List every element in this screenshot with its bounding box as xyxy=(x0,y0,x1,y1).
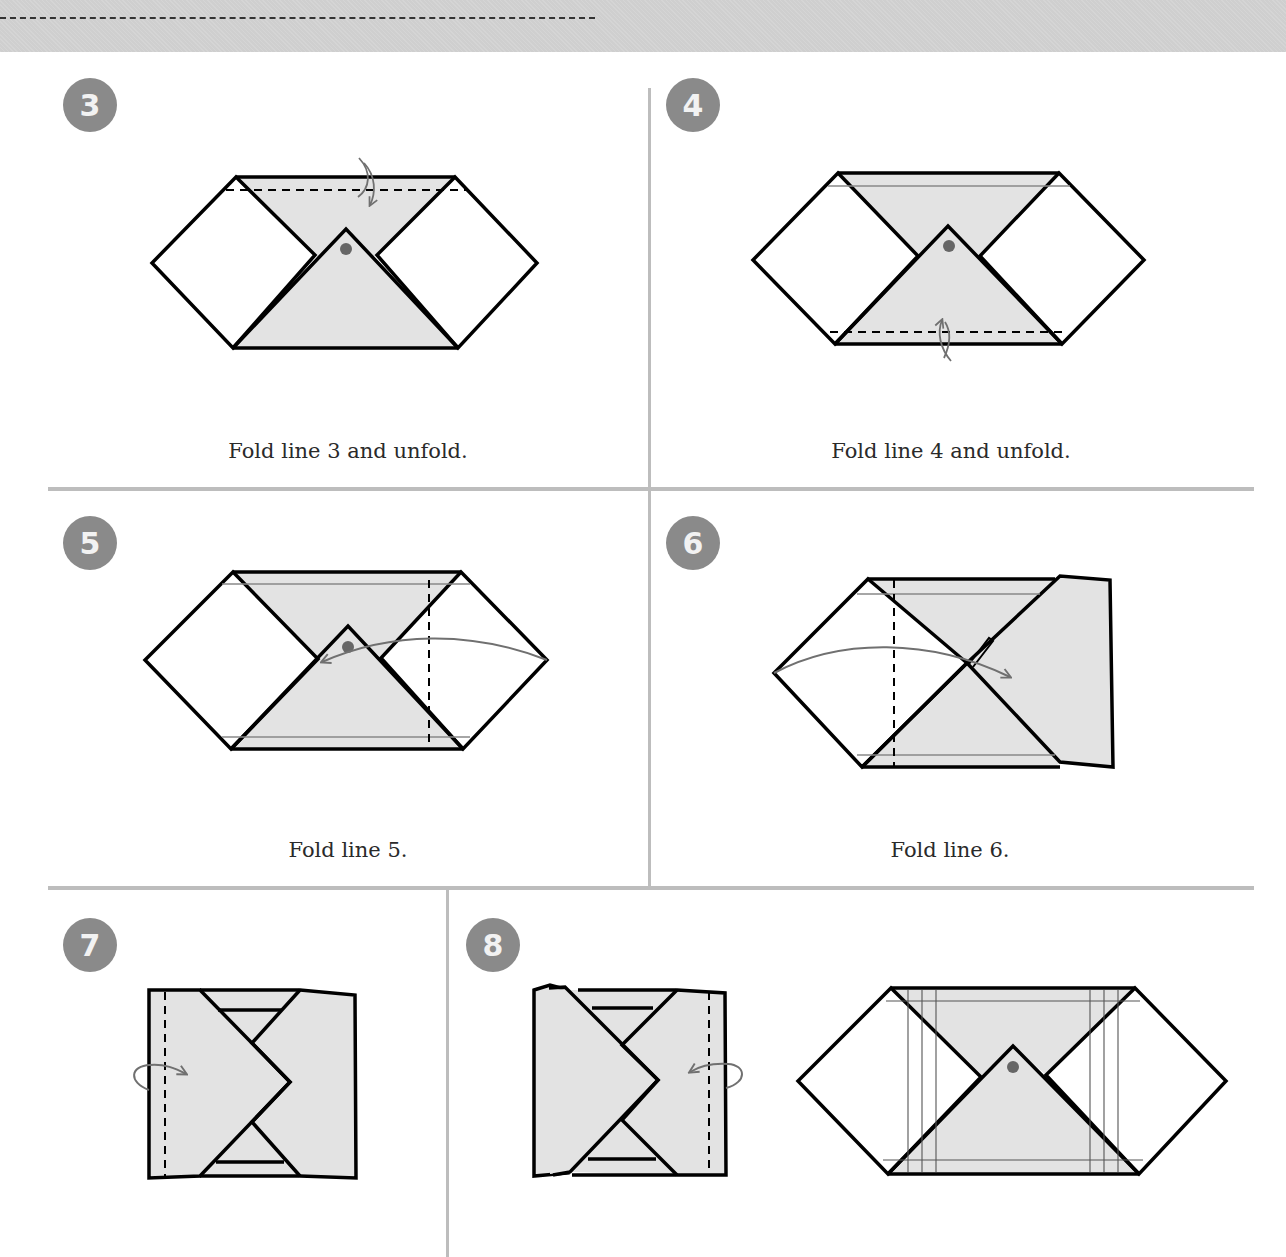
diagram-step-4 xyxy=(753,173,1144,361)
diagram-step-6 xyxy=(774,576,1113,768)
diagram-step-7 xyxy=(134,990,356,1178)
diagram-step-3 xyxy=(152,158,537,348)
diagram-step-5 xyxy=(145,572,547,750)
fold-diagrams xyxy=(0,0,1286,1257)
diagram-step-8-left xyxy=(534,985,742,1176)
diagram-step-8-right xyxy=(798,988,1226,1174)
